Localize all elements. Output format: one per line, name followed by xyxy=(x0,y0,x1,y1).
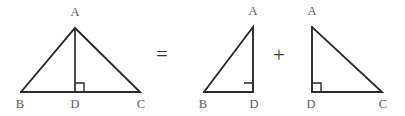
vertex-label-a-abd: A xyxy=(248,4,257,18)
right-angle-marker-adc xyxy=(312,83,321,92)
vertex-label-c-adc: C xyxy=(379,97,387,111)
vertex-label-b-abd: B xyxy=(199,97,207,111)
vertex-label-d-adc: D xyxy=(306,97,315,111)
triangle-adc-group: A D C xyxy=(306,4,387,111)
equals-operator: = xyxy=(156,42,168,66)
geometry-diagram: A B D C = A B D + A D C xyxy=(0,0,405,116)
right-angle-marker-abd xyxy=(244,83,253,92)
triangle-decomposition-figure: A B D C = A B D + A D C xyxy=(0,0,405,116)
triangle-adc-outline xyxy=(312,27,382,92)
triangle-abd-outline xyxy=(204,27,253,92)
vertex-label-a-abc: A xyxy=(70,5,79,19)
plus-operator: + xyxy=(273,43,285,67)
vertex-label-d-abd: D xyxy=(249,97,258,111)
triangle-abc-group: A B D C xyxy=(16,5,145,111)
triangle-abd-group: A B D xyxy=(199,4,259,111)
vertex-label-d-abc: D xyxy=(70,97,79,111)
right-angle-marker-abc xyxy=(75,83,84,92)
vertex-label-b-abc: B xyxy=(16,97,24,111)
vertex-label-c-abc: C xyxy=(137,97,145,111)
vertex-label-a-adc: A xyxy=(307,4,316,18)
